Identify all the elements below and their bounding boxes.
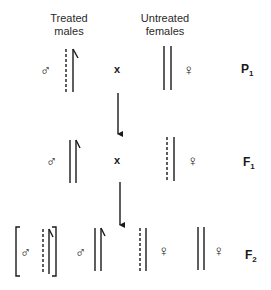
female-symbol: ♀: [183, 62, 194, 77]
gen-sub: 1: [249, 69, 253, 78]
chromosome-hook: [73, 49, 78, 58]
male-symbol: ♂: [20, 244, 31, 259]
gen-sub: 2: [252, 255, 256, 264]
male-symbol: ♂: [75, 244, 86, 259]
right-bracket: [52, 227, 56, 276]
chromosome-diagram: [0, 0, 271, 290]
cross-symbol: x: [114, 63, 120, 75]
generation-label-f1: F1: [243, 155, 255, 171]
generation-label-f2: F2: [245, 248, 257, 264]
female-symbol: ♀: [187, 153, 198, 168]
male-symbol: ♂: [40, 62, 51, 77]
female-symbol: ♀: [213, 243, 224, 258]
generation-label-p1: P1: [241, 62, 253, 78]
gen-sub: 1: [250, 162, 254, 171]
cross-symbol: x: [114, 154, 120, 166]
female-symbol: ♀: [158, 243, 169, 258]
gen-letter: P: [241, 62, 249, 76]
male-symbol: ♂: [46, 153, 57, 168]
